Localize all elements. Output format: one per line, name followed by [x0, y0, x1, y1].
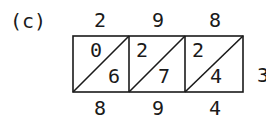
cell-ones-digit: 4: [206, 66, 226, 86]
cell-tens-digit: 2: [188, 40, 208, 60]
cell-ones-digit: 6: [104, 66, 124, 86]
result-digit: 4: [205, 98, 225, 118]
cell-tens-digit: 2: [132, 40, 152, 60]
lattice-grid: [0, 0, 266, 125]
cell-tens-digit: 0: [86, 40, 106, 60]
multiplier-digit: 3: [253, 65, 266, 85]
cell-ones-digit: 7: [154, 66, 174, 86]
result-digit: 8: [90, 98, 110, 118]
result-digit: 9: [148, 98, 168, 118]
